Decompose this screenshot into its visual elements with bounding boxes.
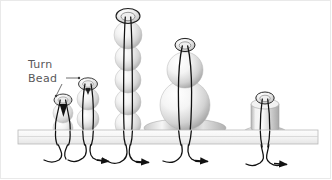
- bead-sphere-medium: [167, 52, 203, 88]
- turn-bead-hole: [260, 95, 270, 101]
- annotation-line-1: Turn: [27, 58, 53, 71]
- bead-sphere: [114, 21, 142, 49]
- warp-bar: [18, 130, 318, 144]
- stack-2: [68, 78, 109, 162]
- bead-sphere: [77, 108, 99, 130]
- thread-arrow: [195, 161, 208, 162]
- thread-arrow: [97, 160, 109, 162]
- stack-1: [44, 94, 73, 162]
- turn-bead-hole: [179, 42, 191, 49]
- thread-arrow: [136, 162, 149, 163]
- turn-bead-hole: [121, 12, 135, 20]
- thread-arrow: [274, 164, 287, 165]
- bead-stack-diagram: Turn Bead: [0, 0, 332, 180]
- annotation-turn-bead: Turn Bead: [27, 58, 79, 96]
- annotation-line-2: Bead: [28, 72, 57, 85]
- diagram-canvas: Turn Bead: [0, 0, 332, 180]
